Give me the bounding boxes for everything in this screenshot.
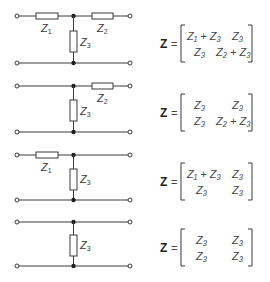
matrix-cell-12: Z₃ xyxy=(231,234,244,246)
left-bracket xyxy=(181,163,185,200)
matrix-row-1: Z = Z₁ + Z₃ Z₃ Z₃ Z₂ + Z₃ xyxy=(160,25,252,62)
resistor-z3 xyxy=(70,169,77,190)
matrix-cell-22: Z₃ xyxy=(231,184,244,196)
resistor-z3 xyxy=(70,31,77,52)
terminal-2-top xyxy=(128,220,132,224)
label-z3: Z3 xyxy=(79,105,91,118)
terminal-1-top xyxy=(15,84,19,88)
label-z1: Z1 xyxy=(40,22,52,35)
matrix-cell-12: Z₃ xyxy=(231,168,244,180)
label-z3: Z3 xyxy=(79,36,91,49)
equals-sign: = xyxy=(171,176,177,188)
terminal-2-top xyxy=(128,14,132,18)
label-z2: Z2 xyxy=(96,22,108,35)
circuit-row-3: Z1 Z3 xyxy=(15,152,132,202)
label-z3: Z3 xyxy=(79,239,91,252)
matrix-symbol: Z xyxy=(160,241,167,255)
matrix-row-2: Z = Z₃ Z₃ Z₃ Z₂ + Z₃ xyxy=(160,94,252,131)
matrix-row-3: Z = Z₁ + Z₃ Z₃ Z₃ Z₃ xyxy=(160,163,252,200)
circuit-row-4: Z3 xyxy=(15,220,132,268)
matrix-cell-22: Z₂ + Z₃ xyxy=(215,115,251,127)
right-bracket xyxy=(248,163,252,200)
matrix-cell-21: Z₃ xyxy=(195,184,208,196)
matrix-symbol: Z xyxy=(160,106,167,120)
terminal-2-top xyxy=(128,84,132,88)
left-bracket xyxy=(181,229,185,266)
matrix-cell-21: Z₃ xyxy=(193,115,206,127)
terminal-1-bottom xyxy=(15,61,19,65)
matrix-cell-12: Z₃ xyxy=(231,30,244,42)
junction-node xyxy=(71,264,75,268)
circuit-row-2: Z2 Z3 xyxy=(15,83,132,134)
resistor-z3 xyxy=(70,235,77,256)
terminal-2-top xyxy=(128,153,132,157)
junction-node xyxy=(71,61,75,65)
matrix-cell-11: Z₃ xyxy=(195,234,208,246)
terminal-2-bottom xyxy=(128,130,132,134)
label-z3: Z3 xyxy=(79,173,91,186)
resistor-z2 xyxy=(92,13,113,19)
equals-sign: = xyxy=(171,242,177,254)
left-bracket xyxy=(181,25,185,62)
label-z2: Z2 xyxy=(96,92,108,105)
resistor-z3 xyxy=(70,100,77,121)
circuit-row-1: Z1 Z2 Z3 xyxy=(15,13,132,65)
two-port-diagram: Z1 Z2 Z3 Z = Z₁ + Z₃ Z₃ Z₃ Z₂ + Z₃ Z2 Z3… xyxy=(0,0,270,282)
terminal-2-bottom xyxy=(128,264,132,268)
terminal-1-top xyxy=(15,153,19,157)
matrix-cell-21: Z₃ xyxy=(193,46,206,58)
terminal-1-bottom xyxy=(15,264,19,268)
matrix-cell-11: Z₃ xyxy=(193,99,206,111)
matrix-row-4: Z = Z₃ Z₃ Z₃ Z₃ xyxy=(160,229,252,266)
junction-node xyxy=(71,130,75,134)
matrix-symbol: Z xyxy=(160,175,167,189)
left-bracket xyxy=(181,94,185,131)
resistor-z1 xyxy=(36,152,58,158)
right-bracket xyxy=(248,229,252,266)
terminal-1-top xyxy=(15,14,19,18)
matrix-cell-11: Z₁ + Z₃ xyxy=(186,168,221,180)
junction-node xyxy=(71,198,75,202)
terminal-1-bottom xyxy=(15,198,19,202)
matrix-cell-11: Z₁ + Z₃ xyxy=(186,30,221,42)
terminal-1-top xyxy=(15,220,19,224)
terminal-1-bottom xyxy=(15,130,19,134)
label-z1: Z1 xyxy=(40,161,52,174)
terminal-2-bottom xyxy=(128,198,132,202)
matrix-cell-21: Z₃ xyxy=(195,250,208,262)
matrix-symbol: Z xyxy=(160,37,167,51)
resistor-z2 xyxy=(92,83,113,89)
matrix-cell-22: Z₃ xyxy=(231,250,244,262)
matrix-cell-12: Z₃ xyxy=(231,99,244,111)
terminal-2-bottom xyxy=(128,61,132,65)
resistor-z1 xyxy=(36,13,58,19)
matrix-cell-22: Z₂ + Z₃ xyxy=(215,46,251,58)
equals-sign: = xyxy=(171,38,177,50)
equals-sign: = xyxy=(171,107,177,119)
